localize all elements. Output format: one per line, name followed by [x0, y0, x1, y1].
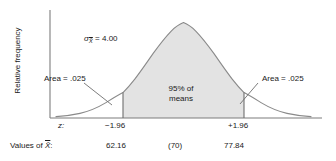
x-row-prefix: Values of: [10, 141, 45, 150]
sigma-annotation: σX̄ = 4.00: [84, 34, 118, 47]
x-axis-row-label: Values of X̄:: [10, 141, 53, 151]
x-row-suffix: :: [50, 141, 52, 150]
area-right-annotation: Area = .025: [262, 74, 304, 84]
z-tick-lower: −1.96: [105, 121, 125, 131]
leader-line-left: [84, 83, 112, 105]
center-region-annotation: 95% of means: [148, 84, 214, 103]
y-axis-title: Relative frequency: [13, 11, 22, 111]
x-tick-upper: 77.84: [224, 141, 244, 151]
z-tick-upper: +1.96: [228, 121, 248, 131]
x-tick-lower: 62.16: [106, 141, 126, 151]
x-tick-center: (70): [168, 141, 182, 151]
z-axis-row-label: z:: [58, 121, 64, 131]
area-left-annotation: Area = .025: [44, 74, 86, 84]
center-label-line1: 95% of: [169, 84, 194, 93]
center-label-line2: means: [169, 94, 193, 103]
sigma-value: = 4.00: [95, 34, 117, 43]
normal-distribution-figure: Relative frequency σX̄ = 4.00 Area = .02…: [0, 0, 336, 161]
sigma-subscript: X̄: [89, 38, 93, 44]
